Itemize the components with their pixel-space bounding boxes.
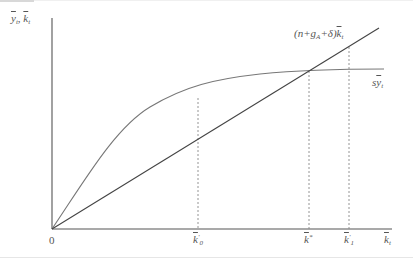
origin-label: 0 — [49, 234, 55, 246]
saving-curve — [52, 69, 384, 229]
y-axis-label: yt, kt — [11, 12, 30, 26]
break-even-line-label: (n+gA+δ)kt — [294, 27, 343, 41]
break-even-line — [52, 28, 379, 229]
diagram-canvas — [0, 0, 413, 263]
x-tick-k1-prime: k′1 — [344, 233, 354, 247]
saving-curve-label: syt — [372, 76, 383, 90]
x-tick-k-star: k* — [304, 233, 312, 245]
x-axis-label: kt — [384, 233, 391, 247]
x-tick-k0-prime: k′0 — [193, 233, 203, 247]
